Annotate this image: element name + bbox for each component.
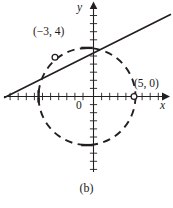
- figure-caption: (b): [0, 182, 173, 194]
- point-marker-b: [131, 94, 137, 100]
- figure-panel: (−3, 4) (5, 0) 0 y x (b): [0, 0, 173, 208]
- y-axis-label: y: [77, 2, 82, 14]
- point-label-a: (−3, 4): [33, 26, 64, 38]
- point-marker-a: [52, 54, 58, 60]
- point-label-b: (5, 0): [134, 78, 159, 90]
- origin-label: 0: [76, 100, 82, 112]
- graph-canvas: [0, 0, 173, 208]
- x-axis-label: x: [160, 100, 165, 112]
